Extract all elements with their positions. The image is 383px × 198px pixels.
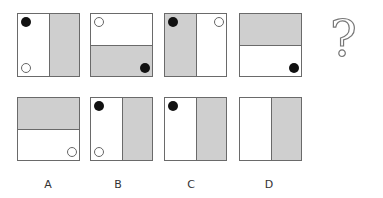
shaded-region [49, 14, 80, 76]
sequence-figure-2 [90, 13, 153, 77]
black-dot-icon [289, 63, 299, 73]
divider-line [49, 14, 50, 76]
shaded-region [122, 98, 153, 160]
option-d[interactable] [239, 97, 302, 161]
shaded-region [18, 98, 80, 129]
divider-line [240, 45, 302, 46]
white-dot-icon [94, 17, 104, 27]
question-mark-icon: ? [330, 14, 357, 64]
option-b[interactable] [90, 97, 153, 161]
option-label-a: A [38, 178, 58, 191]
divider-line [122, 98, 123, 160]
option-c[interactable] [164, 97, 227, 161]
black-dot-icon [140, 63, 150, 73]
black-dot-icon [168, 17, 178, 27]
shaded-region [240, 14, 302, 45]
black-dot-icon [94, 101, 104, 111]
divider-line [196, 98, 197, 160]
shaded-region [271, 98, 302, 160]
sequence-figure-3 [164, 13, 227, 77]
divider-line [18, 129, 80, 130]
white-dot-icon [214, 17, 224, 27]
shaded-region [196, 98, 227, 160]
sequence-figure-1 [17, 13, 80, 77]
black-dot-icon [21, 17, 31, 27]
option-label-d: D [259, 178, 279, 191]
divider-line [91, 45, 153, 46]
sequence-figure-4 [239, 13, 302, 77]
white-dot-icon [67, 147, 77, 157]
option-label-b: B [108, 178, 128, 191]
white-dot-icon [94, 147, 104, 157]
divider-line [196, 14, 197, 76]
black-dot-icon [168, 101, 178, 111]
divider-line [271, 98, 272, 160]
option-label-c: C [181, 178, 201, 191]
white-dot-icon [21, 63, 31, 73]
option-a[interactable] [17, 97, 80, 161]
